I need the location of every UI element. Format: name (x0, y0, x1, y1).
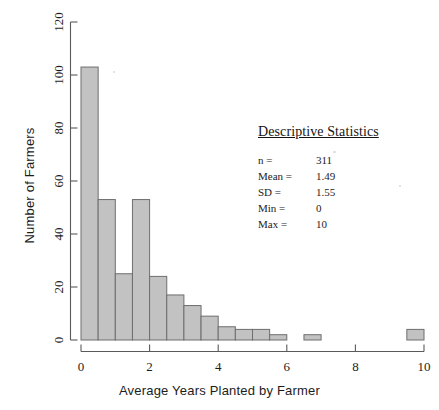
y-tick-label: 120 (51, 12, 66, 32)
scan-speckle (399, 185, 401, 187)
x-axis-title: Average Years Planted by Farmer (0, 383, 439, 398)
histogram-bar (253, 329, 270, 340)
stats-value-n: 311 (316, 153, 335, 169)
histogram-bar (270, 335, 287, 340)
x-tick-label: 0 (78, 359, 85, 374)
table-row: n = 311 (258, 153, 335, 169)
stats-value-min: 0 (316, 201, 335, 217)
x-tick-label: 10 (418, 359, 431, 374)
histogram-figure: 0204060801001200246810 Number of Farmers… (0, 0, 439, 410)
histogram-bar (304, 335, 321, 340)
histogram-bar (132, 200, 149, 340)
table-row: Min = 0 (258, 201, 335, 217)
table-row: SD = 1.55 (258, 185, 335, 201)
table-row: Mean = 1.49 (258, 169, 335, 185)
histogram-bar (218, 327, 235, 340)
y-tick-label: 80 (51, 122, 66, 135)
histogram-bar (407, 329, 424, 340)
y-axis-title: Number of Farmers (22, 96, 37, 276)
x-tick-label: 4 (215, 359, 222, 374)
y-tick-label: 100 (51, 65, 66, 85)
x-tick-label: 2 (146, 359, 153, 374)
y-axis (71, 22, 78, 340)
histogram-bar (167, 295, 184, 340)
table-row: Max = 10 (258, 217, 335, 233)
stats-label-max: Max = (258, 217, 316, 233)
stats-label-min: Min = (258, 201, 316, 217)
x-tick-label: 8 (352, 359, 359, 374)
stats-table: n = 311 Mean = 1.49 SD = 1.55 Min = 0 Ma… (258, 153, 335, 233)
stats-label-sd: SD = (258, 185, 316, 201)
stats-box-title: Descriptive Statistics (258, 124, 418, 140)
stats-value-max: 10 (316, 217, 335, 233)
stats-label-n: n = (258, 153, 316, 169)
y-tick-label: 20 (51, 281, 66, 294)
stats-value-sd: 1.55 (316, 185, 335, 201)
histogram-bar (184, 306, 201, 340)
histogram-bar (81, 67, 98, 340)
x-axis (81, 345, 424, 352)
y-tick-label: 0 (51, 337, 66, 344)
histogram-bar (235, 329, 252, 340)
scan-speckle (333, 151, 336, 153)
descriptive-statistics-box: Descriptive Statistics n = 311 Mean = 1.… (258, 124, 418, 233)
y-tick-label: 40 (51, 228, 66, 241)
histogram-bar (98, 200, 115, 340)
stats-value-mean: 1.49 (316, 169, 335, 185)
histogram-bar (150, 276, 167, 340)
x-tick-label: 6 (284, 359, 291, 374)
histogram-bar (201, 316, 218, 340)
stats-label-mean: Mean = (258, 169, 316, 185)
histogram-bar (115, 274, 132, 340)
y-tick-label: 60 (51, 175, 66, 188)
scan-speckle (113, 71, 115, 73)
